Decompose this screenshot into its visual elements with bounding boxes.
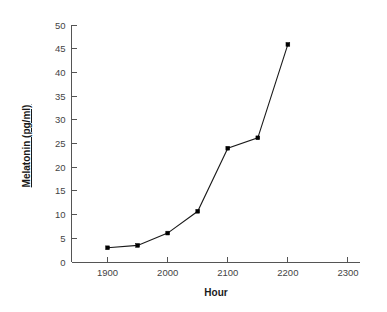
x-tick-group [108, 257, 348, 262]
x-tick-label-2000: 2000 [157, 267, 178, 278]
y-tick-label-35: 35 [55, 91, 66, 102]
y-tick-label-25: 25 [55, 138, 66, 149]
data-point-2150 [256, 136, 260, 140]
data-point-2000 [166, 231, 170, 235]
y-tick-label-30: 30 [55, 114, 66, 125]
data-series-group [106, 43, 290, 250]
x-axis-title: Hour [204, 287, 227, 298]
y-tick-label-group: 05101520253035404550 [55, 20, 66, 268]
x-tick-label-2300: 2300 [337, 267, 358, 278]
y-tick-label-50: 50 [55, 20, 66, 31]
y-tick-label-10: 10 [55, 209, 66, 220]
melatonin-line-path [108, 44, 288, 247]
x-tick-label-2200: 2200 [277, 267, 298, 278]
y-tick-label-20: 20 [55, 162, 66, 173]
y-axis-title: Melatonin (pg/ml) [21, 105, 32, 188]
x-tick-label-2100: 2100 [217, 267, 238, 278]
y-axis-group: 05101520253035404550 [55, 20, 77, 268]
data-point-1950 [136, 244, 140, 248]
x-axis-group: 19002000210022002300 [72, 257, 361, 278]
y-tick-label-45: 45 [55, 43, 66, 54]
y-tick-label-0: 0 [60, 257, 65, 268]
data-point-1900 [106, 246, 110, 250]
melatonin-marker-group [106, 43, 290, 250]
y-tick-label-40: 40 [55, 67, 66, 78]
data-point-2200 [286, 43, 290, 47]
melatonin-line-chart: 05101520253035404550 1900200021002200230… [0, 0, 387, 312]
x-tick-label-group: 19002000210022002300 [97, 267, 359, 278]
y-tick-group [72, 25, 77, 262]
chart-canvas: 05101520253035404550 1900200021002200230… [0, 0, 387, 312]
data-point-2050 [196, 209, 200, 213]
y-tick-label-15: 15 [55, 185, 66, 196]
y-tick-label-5: 5 [60, 233, 65, 244]
data-point-2100 [226, 146, 230, 150]
x-tick-label-1900: 1900 [97, 267, 118, 278]
